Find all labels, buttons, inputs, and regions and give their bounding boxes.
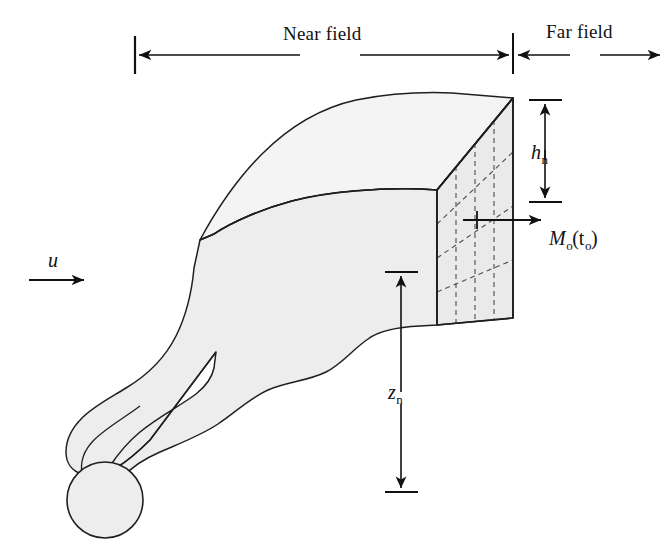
mass-flux-paren-open: (t	[572, 227, 584, 249]
wind-speed-label: u	[48, 250, 58, 270]
plume-height-symbol: h	[531, 141, 541, 163]
mass-flux-subscript-2: o	[585, 238, 592, 253]
plume-rise-label: zn	[388, 382, 402, 402]
plume-diagram-svg	[0, 0, 665, 558]
source-stack	[67, 462, 143, 538]
near-field-label: Near field	[283, 24, 361, 43]
plume-rise-subscript: n	[396, 392, 403, 407]
far-field-label: Far field	[546, 22, 613, 41]
plume-height-label: hn	[531, 142, 548, 162]
stack-circle	[67, 462, 143, 538]
figure-canvas: Near field Far field u hn zn Mo(to)	[0, 0, 665, 558]
mass-flux-symbol: M	[549, 227, 566, 249]
plume-rise-symbol: z	[388, 381, 396, 403]
plume-height-subscript: n	[542, 152, 549, 167]
mass-flux-subscript-1: o	[566, 238, 573, 253]
mass-flux-label: Mo(to)	[549, 228, 598, 248]
mass-flux-paren-close: )	[591, 227, 598, 249]
plume-front-surface	[66, 189, 437, 476]
